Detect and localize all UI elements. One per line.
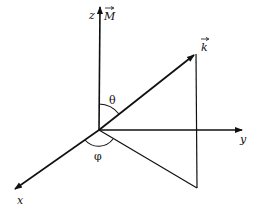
theta-label: θ [109,94,116,107]
magnetization-label-text: M [103,10,116,23]
wave-vector-label: k [201,38,209,55]
x-axis [15,130,99,189]
phi-label: φ [94,150,102,163]
magnetization-label: M [103,7,116,24]
wave-vector-label-text: k [201,41,208,54]
phi-arc [85,139,113,146]
wave-vector-k [99,55,194,130]
z-axis-label: z [88,9,95,22]
z-axis [99,7,100,130]
k-horizontal-projection [99,130,197,188]
y-axis-label: y [239,133,247,146]
x-axis-label: x [17,194,24,207]
spherical-coordinate-diagram: z M k y x θ φ [0,0,258,209]
k-vertical-projection [196,54,197,188]
